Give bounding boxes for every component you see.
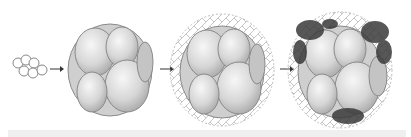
diagram-canvas bbox=[0, 0, 411, 137]
arrow-icon bbox=[50, 66, 64, 72]
stage-3-cluster-with-matrix bbox=[170, 14, 274, 126]
stage-4-cluster-with-deposits bbox=[288, 12, 392, 128]
stage-2-cell-cluster bbox=[68, 24, 153, 116]
stage-1-small-cluster bbox=[13, 55, 47, 78]
cell-sequence-illustration bbox=[0, 0, 411, 137]
bottom-band bbox=[8, 130, 406, 137]
